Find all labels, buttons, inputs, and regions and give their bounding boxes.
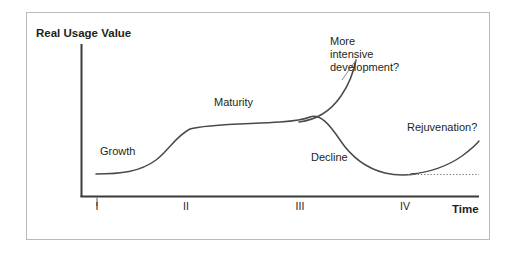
x-tick-label-3: III [291, 200, 309, 212]
annotation-line-2: intensive [330, 48, 399, 61]
annotation-line-3: development? [330, 61, 399, 74]
x-axis-label: Time [452, 203, 479, 216]
y-axis-label: Real Usage Value [36, 27, 131, 40]
stage-label-rejuvenation: Rejuvenation? [407, 121, 477, 134]
stage-label-maturity: Maturity [214, 96, 253, 109]
x-tick-label-2: II [177, 200, 195, 212]
x-tick-label-1: I [88, 200, 106, 212]
rejuvenation-curve [411, 141, 479, 174]
stage-label-decline: Decline [311, 151, 348, 164]
main-lifecycle-curve [96, 116, 416, 175]
figure-canvas: Real Usage Value Time Growth Maturity De… [0, 0, 516, 254]
stage-label-growth: Growth [100, 145, 135, 158]
annotation-more-intensive-development: More intensive development? [330, 35, 399, 74]
annotation-line-1: More [330, 35, 399, 48]
x-tick-label-4: IV [396, 200, 414, 212]
